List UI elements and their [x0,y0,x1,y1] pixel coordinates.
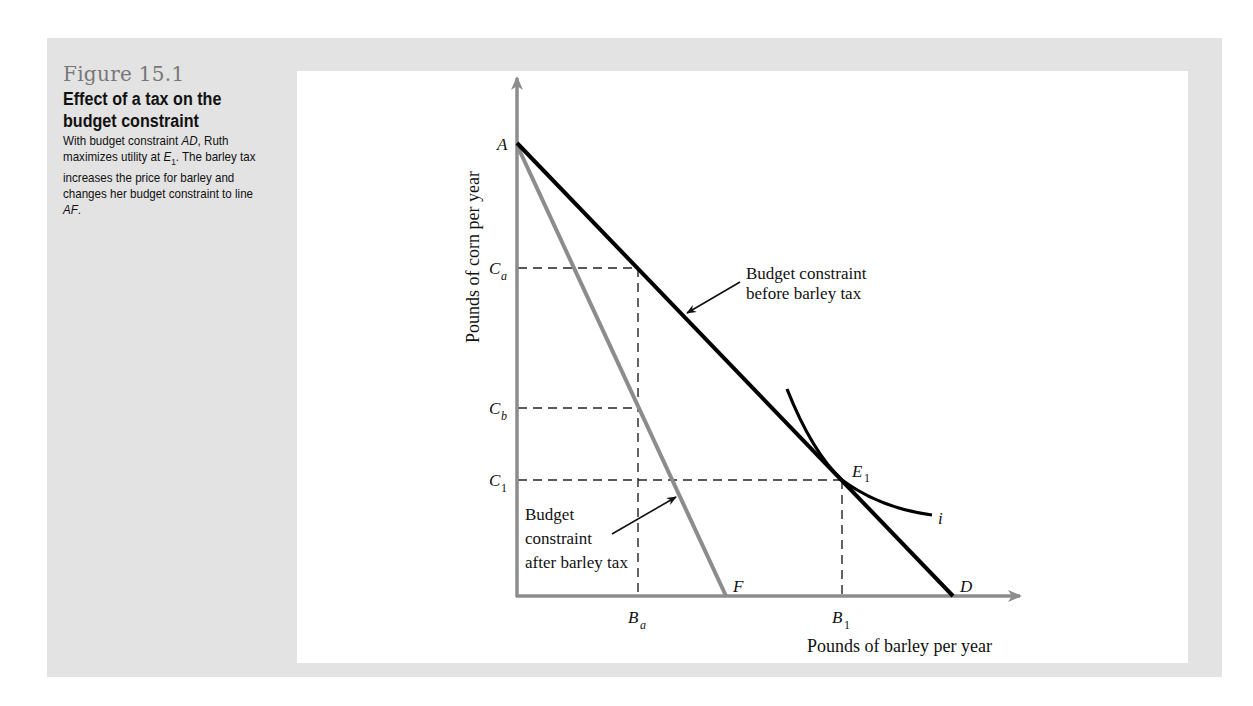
svg-text:constraint: constraint [525,529,592,548]
label-d: D [959,577,973,596]
label-c1: C 1 [489,471,507,495]
svg-text:B: B [832,608,843,627]
svg-text:a: a [640,618,646,632]
arrow-before-tax [687,282,740,313]
label-b1: B 1 [832,608,850,632]
svg-text:E: E [851,462,863,481]
svg-text:after barley tax: after barley tax [525,553,628,572]
svg-text:1: 1 [844,618,850,632]
svg-text:Budget: Budget [525,505,574,524]
svg-text:B: B [628,608,639,627]
label-ca: C a [489,259,507,283]
y-axis-title: Pounds of corn per year [463,171,483,343]
label-i: i [938,509,943,528]
label-cb: C b [489,399,507,423]
label-a: A [496,135,508,154]
x-axis-title: Pounds of barley per year [807,636,992,656]
svg-text:Budget constraint: Budget constraint [746,264,867,283]
label-ba: B a [628,608,646,632]
annotation-after-tax: Budget constraint after barley tax [525,505,628,572]
svg-text:before barley tax: before barley tax [746,284,862,303]
budget-constraint-chart: Pounds of corn per year Pounds of barley… [0,0,1253,706]
svg-text:1: 1 [501,481,507,495]
svg-text:C: C [489,471,501,490]
svg-text:a: a [501,269,507,283]
arrow-after-tax [612,497,676,534]
svg-text:1: 1 [864,471,870,485]
annotation-before-tax: Budget constraint before barley tax [746,264,867,303]
svg-text:C: C [489,399,501,418]
label-f: F [732,577,744,596]
label-e1: E 1 [851,462,870,485]
svg-text:C: C [489,259,501,278]
svg-text:b: b [501,409,507,423]
